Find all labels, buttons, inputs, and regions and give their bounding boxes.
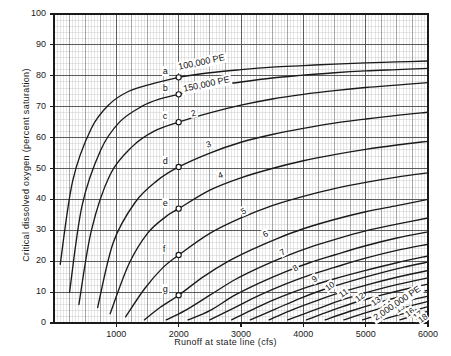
chart-figure: Critical dissolved oxygen (percent satur…: [0, 0, 451, 356]
point-label-f: f: [162, 244, 167, 254]
marker-point-d: [176, 164, 181, 169]
marker-point-g: [176, 293, 181, 298]
marker-point-c: [176, 120, 181, 125]
marker-point-b: [176, 92, 181, 97]
marker-point-f: [176, 252, 181, 257]
point-label-a: a: [162, 66, 169, 76]
marker-point-e: [176, 206, 181, 211]
point-label-d: d: [162, 156, 169, 166]
point-label-g: g: [162, 284, 169, 294]
point-label-e: e: [162, 198, 169, 208]
point-label-b: b: [162, 83, 169, 93]
marker-point-a: [176, 75, 181, 80]
point-label-c: c: [162, 111, 169, 121]
